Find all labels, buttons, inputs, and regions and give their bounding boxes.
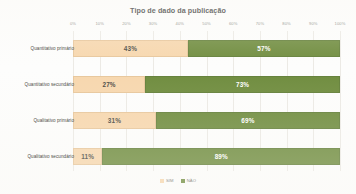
bar-value-label: 89% xyxy=(215,153,228,160)
gridline xyxy=(340,31,341,171)
category-label: Quantitativo primário xyxy=(0,46,74,51)
bar-row: 43%57% xyxy=(73,40,340,57)
plot-area: 43%57%27%73%31%69%11%89% xyxy=(73,31,340,171)
category-label: Quantitativo secundário xyxy=(0,82,74,87)
bar-value-label: 57% xyxy=(257,45,270,52)
chart-title: Tipo de dado da publicação xyxy=(0,6,356,15)
legend-label: SIM xyxy=(166,178,174,183)
bar-value-label: 27% xyxy=(102,81,115,88)
bar-segment-nao[interactable]: 57% xyxy=(188,40,340,57)
bar-segment-sim[interactable]: 43% xyxy=(73,40,188,57)
x-tick-label: 10% xyxy=(95,21,104,26)
bar-row: 27%73% xyxy=(73,76,340,93)
legend-swatch-icon xyxy=(181,179,185,183)
x-tick-label: 80% xyxy=(282,21,291,26)
x-tick-label: 50% xyxy=(202,21,211,26)
chart-container: Tipo de dado da publicação 0%10%20%30%40… xyxy=(0,0,356,194)
bar-row: 31%69% xyxy=(73,112,340,129)
bar-segment-sim[interactable]: 11% xyxy=(73,148,102,165)
legend-item[interactable]: SIM xyxy=(160,178,174,183)
x-tick-label: 90% xyxy=(309,21,318,26)
bar-value-label: 11% xyxy=(81,153,94,160)
x-tick-label: 30% xyxy=(149,21,158,26)
bar-segment-sim[interactable]: 27% xyxy=(73,76,145,93)
x-tick-label: 100% xyxy=(335,21,346,26)
chart-legend: SIMNÃO xyxy=(0,178,356,183)
x-tick-label: 20% xyxy=(122,21,131,26)
bar-segment-nao[interactable]: 69% xyxy=(156,112,340,129)
bar-segment-sim[interactable]: 31% xyxy=(73,112,156,129)
bar-row: 11%89% xyxy=(73,148,340,165)
bar-segment-nao[interactable]: 73% xyxy=(145,76,340,93)
bar-value-label: 73% xyxy=(236,81,249,88)
legend-item[interactable]: NÃO xyxy=(181,178,196,183)
bar-segment-nao[interactable]: 89% xyxy=(102,148,340,165)
legend-swatch-icon xyxy=(160,179,164,183)
category-label: Qualitativo secundário xyxy=(0,154,74,159)
legend-label: NÃO xyxy=(187,178,196,183)
x-tick-label: 70% xyxy=(256,21,265,26)
x-tick-label: 40% xyxy=(176,21,185,26)
bar-value-label: 43% xyxy=(124,45,137,52)
x-tick-label: 0% xyxy=(70,21,76,26)
category-label: Qualitativo primário xyxy=(0,118,74,123)
x-axis-tick-labels: 0%10%20%30%40%50%60%70%80%90%100% xyxy=(73,21,340,30)
x-tick-label: 60% xyxy=(229,21,238,26)
bar-value-label: 69% xyxy=(241,117,254,124)
bar-value-label: 31% xyxy=(108,117,121,124)
